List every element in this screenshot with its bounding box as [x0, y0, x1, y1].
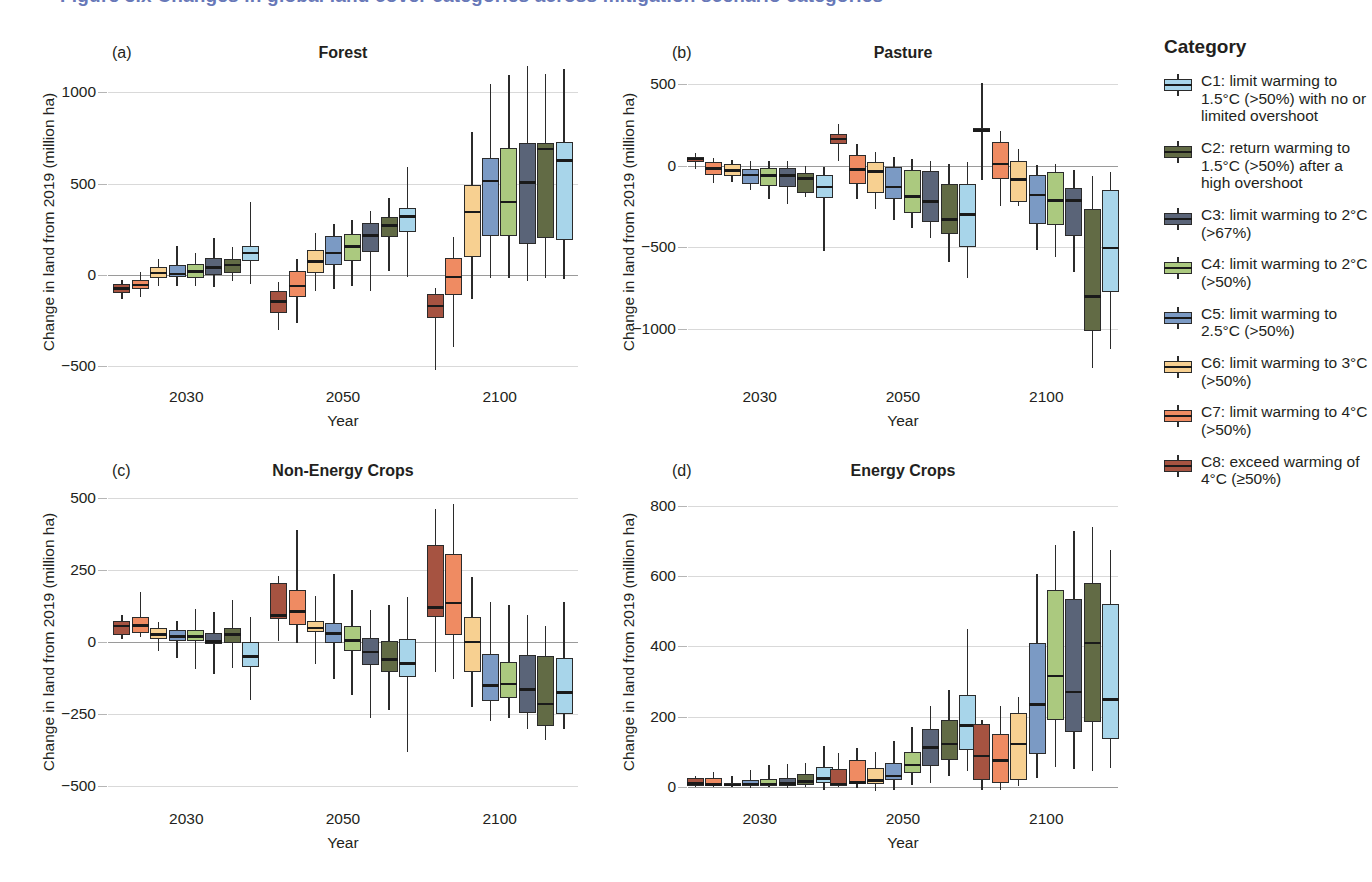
- legend-label-c2: C2: return warming to 1.5°C (>50%) after…: [1201, 139, 1372, 192]
- legend-title: Category: [1164, 36, 1372, 58]
- box-d-2050-c6: [867, 752, 884, 791]
- legend-swatch-c4-icon: [1164, 257, 1192, 279]
- box-d-2050-c2: [941, 690, 958, 776]
- legend-label-c7: C7: limit warming to 4°C (>50%): [1201, 403, 1372, 438]
- y-tickmark-d-1: [678, 576, 687, 577]
- legend-items: C1: limit warming to 1.5°C (>50%) with n…: [1164, 72, 1372, 488]
- legend-swatch-c5-icon: [1164, 307, 1192, 329]
- legend-label-c1: C1: limit warming to 1.5°C (>50%) with n…: [1201, 72, 1372, 125]
- box-d-2100-c7: [992, 706, 1009, 790]
- box-d-2030-c8: [687, 776, 704, 787]
- figure-root: Figure 3.x Changes in global land cover …: [0, 0, 1372, 882]
- legend-item-c3[interactable]: C3: limit warming to 2°C (>67%): [1164, 206, 1372, 241]
- legend-label-c4: C4: limit warming to 2°C (>50%): [1201, 255, 1372, 290]
- y-tick-d-1: 600: [596, 567, 676, 585]
- box-d-2050-c8: [830, 753, 847, 786]
- box-d-2100-c2: [1084, 527, 1101, 771]
- box-d-2100-c8: [973, 720, 990, 789]
- box-d-2100-c6: [1010, 697, 1027, 786]
- box-d-2050-c3: [922, 706, 939, 782]
- legend-item-c6[interactable]: C6: limit warming to 3°C (>50%): [1164, 354, 1372, 389]
- box-d-2050-c5: [885, 741, 902, 789]
- y-tickmark-d-4: [678, 787, 687, 788]
- legend-item-c8[interactable]: C8: exceed warming of 4°C (≥50%): [1164, 453, 1372, 488]
- legend-swatch-c7-icon: [1164, 405, 1192, 427]
- x-tick-d-2030: 2030: [688, 810, 831, 828]
- legend-item-c7[interactable]: C7: limit warming to 4°C (>50%): [1164, 403, 1372, 438]
- box-d-2100-c1: [1102, 550, 1119, 769]
- box-d-2030-c4: [760, 765, 777, 787]
- box-d-2100-c5: [1029, 574, 1046, 778]
- x-axis-label-d: Year: [688, 834, 1118, 852]
- box-d-2030-c3: [779, 764, 796, 789]
- x-tick-d-2050: 2050: [831, 810, 974, 828]
- legend-label-c5: C5: limit warming to 2.5°C (>50%): [1201, 305, 1372, 340]
- legend-swatch-c8-icon: [1164, 455, 1192, 477]
- box-d-2050-c4: [904, 727, 921, 785]
- x-tick-d-2100: 2100: [975, 810, 1118, 828]
- box-d-2030-c6: [724, 776, 741, 787]
- legend: Category C1: limit warming to 1.5°C (>50…: [1164, 36, 1372, 502]
- panel-title-d: Energy Crops: [773, 462, 1033, 480]
- y-tick-d-2: 400: [596, 637, 676, 655]
- legend-item-c5[interactable]: C5: limit warming to 2.5°C (>50%): [1164, 305, 1372, 340]
- box-d-2030-c5: [742, 770, 759, 788]
- box-d-2030-c7: [705, 772, 722, 787]
- legend-label-c3: C3: limit warming to 2°C (>67%): [1201, 206, 1372, 241]
- legend-label-c6: C6: limit warming to 3°C (>50%): [1201, 354, 1372, 389]
- legend-item-c1[interactable]: C1: limit warming to 1.5°C (>50%) with n…: [1164, 72, 1372, 125]
- y-tick-d-3: 200: [596, 708, 676, 726]
- legend-swatch-c1-icon: [1164, 74, 1192, 96]
- box-d-2100-c4: [1047, 545, 1064, 768]
- y-tick-d-4: 0: [596, 778, 676, 796]
- gridline-d-800: [688, 506, 1118, 507]
- panel-letter-d: (d): [672, 462, 692, 480]
- legend-swatch-c3-icon: [1164, 208, 1192, 230]
- y-tickmark-d-3: [678, 717, 687, 718]
- legend-swatch-c6-icon: [1164, 356, 1192, 378]
- y-tick-d-0: 800: [596, 497, 676, 515]
- legend-item-c4[interactable]: C4: limit warming to 2°C (>50%): [1164, 255, 1372, 290]
- y-tickmark-d-2: [678, 646, 687, 647]
- box-d-2100-c3: [1065, 531, 1082, 770]
- box-d-2050-c7: [849, 748, 866, 788]
- legend-swatch-c2-icon: [1164, 141, 1192, 163]
- legend-label-c8: C8: exceed warming of 4°C (≥50%): [1201, 453, 1372, 488]
- legend-item-c2[interactable]: C2: return warming to 1.5°C (>50%) after…: [1164, 139, 1372, 192]
- box-d-2030-c2: [797, 763, 814, 787]
- y-tickmark-d-0: [678, 506, 687, 507]
